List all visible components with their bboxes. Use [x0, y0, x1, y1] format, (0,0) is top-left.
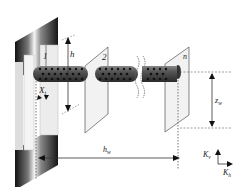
rod-segment-3 [142, 66, 177, 82]
plate-1-label: 1 [43, 51, 48, 61]
rod-plates-diagram: 1 2 n [0, 0, 247, 187]
dimension-hw: hw [38, 145, 180, 161]
plate-2: 2 [85, 47, 108, 133]
h-label: h [70, 49, 75, 59]
plate-n-label: n [183, 52, 187, 61]
plate-n: n [165, 47, 189, 132]
hw-label: hw [103, 145, 111, 155]
kh-label: Kh [222, 168, 231, 178]
rod-segment-1 [33, 66, 88, 82]
zw-label: zw [214, 96, 222, 106]
rod-segment-2 [95, 66, 138, 82]
kv-label: Kv [202, 150, 211, 160]
k-axes: Kv Kh [202, 149, 233, 178]
plate-2-label: 2 [102, 52, 107, 62]
